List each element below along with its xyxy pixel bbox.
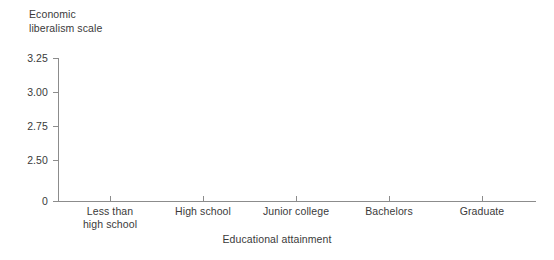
x-axis-line — [58, 201, 536, 202]
x-tick-label: Less than high school — [83, 205, 137, 230]
y-tick-mark — [53, 201, 58, 202]
chart-figure: Economic liberalism scale 3.253.002.752.… — [0, 0, 554, 260]
x-tick-mark — [110, 196, 111, 201]
y-tick-mark — [53, 126, 58, 127]
x-tick-mark — [389, 196, 390, 201]
y-tick-label: 3.25 — [27, 53, 48, 64]
y-tick-label: 0 — [42, 196, 48, 207]
x-tick-mark — [296, 196, 297, 201]
y-tick-label: 2.50 — [27, 155, 48, 166]
x-tick-mark — [203, 196, 204, 201]
plot-area — [59, 58, 536, 201]
x-tick-mark — [482, 196, 483, 201]
x-tick-label: Junior college — [263, 205, 329, 218]
x-tick-label: Bachelors — [365, 205, 413, 218]
y-tick-label: 3.00 — [27, 87, 48, 98]
y-tick-label: 2.75 — [27, 121, 48, 132]
x-tick-label: Graduate — [460, 205, 505, 218]
y-tick-mark — [53, 58, 58, 59]
y-tick-mark — [53, 160, 58, 161]
y-tick-mark — [53, 92, 58, 93]
x-axis-title: Educational attainment — [0, 233, 554, 245]
y-axis-line — [58, 58, 59, 201]
y-axis-title: Economic liberalism scale — [29, 8, 102, 35]
x-tick-label: High school — [175, 205, 231, 218]
